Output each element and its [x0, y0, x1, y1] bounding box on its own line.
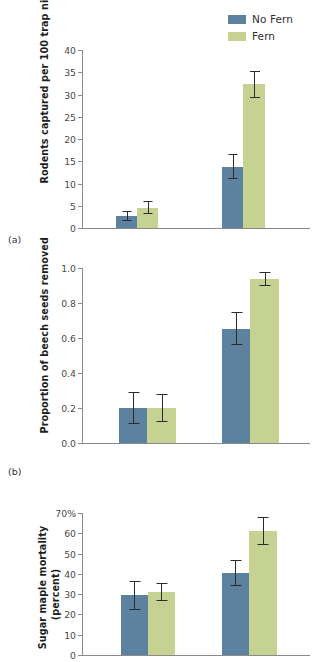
errorbar-cap-bottom — [157, 421, 168, 422]
panel-b-ticklabel-1.0: 1.0 — [61, 263, 76, 274]
panel-a-ticklabel-20: 20 — [64, 134, 76, 145]
panel-c-tick-50 — [78, 554, 82, 555]
panel-a-ticklabel-25: 25 — [64, 111, 76, 122]
panel-c-tick-10 — [78, 635, 82, 636]
panel-c-ticklabel-10: 10 — [64, 629, 76, 640]
panel-a-tick-35 — [78, 72, 82, 73]
panel-a: Rodents captured per 100 trap nights 0 5… — [0, 0, 323, 250]
panel-b-y-axis-title: Proportion of beech seeds removed — [39, 262, 50, 434]
panel-b-tick-0.2 — [78, 408, 82, 409]
panel-c-tick-70 — [78, 513, 82, 514]
errorbar-cap-top — [157, 394, 168, 395]
panel-c-ticklabel-30: 30 — [64, 589, 76, 600]
panel-b-tick-0.0 — [78, 443, 82, 444]
panel-a-ticklabel-35: 35 — [64, 67, 76, 78]
bar-c-g1-fern — [148, 592, 175, 655]
panel-b-ticklabel-0.2: 0.2 — [61, 403, 76, 414]
panel-b-tick-1.0 — [78, 268, 82, 269]
panel-a-tick-40 — [78, 50, 82, 51]
errorbar-b-g1-no-fern — [133, 392, 134, 424]
errorbar-cap-top — [123, 211, 132, 212]
errorbar-c-g2-no-fern — [235, 560, 236, 586]
panel-a-y-axis-title: Rodents captured per 100 trap nights — [39, 4, 50, 184]
panel-c-ticklabel-50: 50 — [64, 548, 76, 559]
panel-c-tick-30 — [78, 594, 82, 595]
panel-a-tick-30 — [78, 95, 82, 96]
panel-c-tick-40 — [78, 574, 82, 575]
errorbar-cap-bottom — [258, 544, 269, 545]
errorbar-c-g2-fern — [263, 517, 264, 545]
panel-c-y-axis-line — [82, 513, 83, 655]
panel-b-ticklabel-0.0: 0.0 — [61, 438, 76, 449]
errorbar-cap-bottom — [260, 285, 271, 286]
errorbar-c-g1-fern — [161, 583, 162, 601]
panel-a-ticklabel-30: 30 — [64, 89, 76, 100]
errorbar-a-g2-fern — [254, 71, 255, 99]
panel-b-tick-0.6 — [78, 338, 82, 339]
panel-c-ticklabel-60: 60 — [64, 528, 76, 539]
errorbar-cap-bottom — [123, 220, 132, 221]
panel-a-ticklabel-5: 5 — [70, 200, 76, 211]
panel-a-ticklabel-0: 0 — [70, 223, 76, 234]
errorbar-cap-top — [250, 71, 260, 72]
panel-a-tick-10 — [78, 184, 82, 185]
figure-root: No Fern Fern Rodents captured per 100 tr… — [0, 0, 323, 662]
panel-a-tick-0 — [78, 228, 82, 229]
panel-b-y-axis-line — [82, 268, 83, 443]
errorbar-cap-bottom — [230, 585, 241, 586]
errorbar-cap-bottom — [250, 97, 260, 98]
panel-c-ticklabel-0: 0 — [70, 650, 76, 661]
errorbar-a-g2-no-fern — [233, 154, 234, 179]
errorbar-cap-top — [231, 312, 242, 313]
errorbar-cap-bottom — [128, 423, 139, 424]
errorbar-a-g1-no-fern — [127, 211, 128, 222]
errorbar-cap-bottom — [129, 609, 140, 610]
errorbar-cap-bottom — [156, 600, 167, 601]
errorbar-cap-top — [128, 392, 139, 393]
panel-a-y-axis-line — [82, 50, 83, 228]
errorbar-b-g2-no-fern — [236, 312, 237, 345]
panel-c-tick-20 — [78, 614, 82, 615]
errorbar-cap-top — [144, 201, 153, 202]
panel-b-x-axis-line — [82, 443, 310, 444]
panel-b-ticklabel-0.6: 0.6 — [61, 333, 76, 344]
panel-c-x-axis-line — [82, 655, 310, 656]
errorbar-cap-top — [129, 581, 140, 582]
errorbar-cap-top — [156, 583, 167, 584]
panel-b: Proportion of beech seeds removed 0.0 0.… — [0, 250, 323, 480]
errorbar-c-g1-no-fern — [134, 581, 135, 610]
errorbar-cap-top — [230, 560, 241, 561]
panel-b-ticklabel-0.8: 0.8 — [61, 298, 76, 309]
panel-a-x-axis-line — [82, 228, 310, 229]
panel-a-plot-area: 0 5 10 15 20 25 30 35 40 — [82, 50, 310, 228]
panel-c-ticklabel-70: 70% — [55, 508, 76, 519]
panel-a-tag: (a) — [8, 234, 21, 245]
panel-a-ticklabel-40: 40 — [64, 45, 76, 56]
panel-c-ticklabel-20: 20 — [64, 609, 76, 620]
errorbar-cap-bottom — [229, 178, 238, 179]
panel-b-ticklabel-0.4: 0.4 — [61, 368, 76, 379]
panel-b-tick-0.8 — [78, 303, 82, 304]
errorbar-cap-top — [258, 517, 269, 518]
panel-c-ticklabel-40: 40 — [64, 568, 76, 579]
panel-a-tick-5 — [78, 206, 82, 207]
panel-b-plot-area: 0.0 0.2 0.4 0.6 0.8 1.0 — [82, 268, 310, 443]
panel-c-y-axis-title-line2: (percent) — [50, 533, 61, 657]
panel-a-ticklabel-10: 10 — [64, 178, 76, 189]
errorbar-cap-top — [229, 154, 238, 155]
errorbar-cap-bottom — [231, 344, 242, 345]
bar-c-g2-fern — [249, 531, 277, 655]
panel-c-plot-area: 0 10 20 30 40 50 60 70% — [82, 513, 310, 655]
panel-c-tick-60 — [78, 533, 82, 534]
panel-c: Sugar maple mortality (percent) 0 10 20 … — [0, 480, 323, 662]
errorbar-b-g2-fern — [265, 272, 266, 286]
panel-a-tick-20 — [78, 139, 82, 140]
bar-a-g2-fern — [243, 84, 265, 228]
errorbar-a-g1-fern — [148, 201, 149, 214]
panel-b-tick-0.4 — [78, 373, 82, 374]
panel-b-tag: (b) — [8, 466, 21, 477]
errorbar-cap-bottom — [144, 213, 153, 214]
bar-b-g2-no-fern — [222, 329, 250, 443]
errorbar-cap-top — [260, 272, 271, 273]
panel-a-tick-15 — [78, 161, 82, 162]
